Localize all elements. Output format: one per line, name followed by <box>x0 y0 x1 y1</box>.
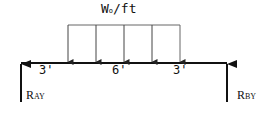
dimension-left: 3' <box>39 63 53 77</box>
load-label-unit: /ft <box>113 1 136 16</box>
reaction-a-main: R <box>26 88 34 102</box>
reaction-b-main: R <box>237 88 245 102</box>
distributed-load <box>68 25 180 62</box>
reaction-b-sub: BY <box>245 92 256 101</box>
dimension-right: 3' <box>173 63 187 77</box>
reaction-label-a: RAY <box>26 88 45 103</box>
reaction-label-b: RBY <box>237 88 256 103</box>
dimension-middle: 6' <box>112 63 126 77</box>
load-label: Wo/ft <box>101 1 137 16</box>
reaction-a-sub: AY <box>34 92 45 101</box>
load-label-main: W <box>101 1 109 16</box>
